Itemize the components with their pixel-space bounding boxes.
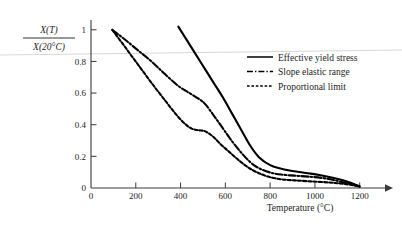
legend-label: Proportional limit	[278, 82, 346, 92]
x-tick-label: 1000	[306, 191, 325, 201]
y-tick-label: 0.8	[75, 57, 87, 67]
x-axis-arrow-icon	[385, 184, 393, 192]
x-tick-label: 800	[263, 191, 277, 201]
y-tick-group: 00.20.40.60.81	[75, 25, 97, 193]
x-tick-label: 600	[219, 191, 233, 201]
chart-legend: Effective yield stressSlope elastic rang…	[247, 53, 358, 92]
y-axis-title-numerator: X(T)	[39, 25, 57, 36]
x-tick-label: 200	[129, 191, 143, 201]
x-axis-title: Temperature (°C)	[267, 203, 334, 214]
y-tick-label: 0.2	[75, 152, 86, 162]
x-tick-label: 400	[174, 191, 188, 201]
y-tick-label: 1	[82, 25, 87, 35]
x-tick-label: 0	[89, 191, 94, 201]
y-axis-title: X(T) X(20°C)	[23, 25, 75, 53]
chart-svg: 00.20.40.60.81 020040060080010001200 X(T…	[0, 0, 402, 233]
legend-label: Slope elastic range	[278, 67, 350, 77]
legend-label: Effective yield stress	[278, 53, 358, 63]
chart-container: 00.20.40.60.81 020040060080010001200 X(T…	[0, 0, 402, 233]
x-tick-group: 020040060080010001200	[89, 183, 369, 201]
y-tick-label: 0	[82, 183, 87, 193]
x-tick-label: 1200	[351, 191, 370, 201]
y-axis-title-denominator: X(20°C)	[32, 42, 65, 53]
y-axis: 00.20.40.60.81	[75, 20, 97, 193]
y-tick-label: 0.6	[75, 88, 87, 98]
y-tick-label: 0.4	[75, 120, 87, 130]
